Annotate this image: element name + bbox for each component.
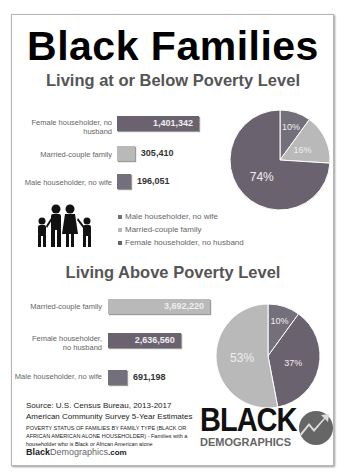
pie-slice-label: 16% bbox=[294, 145, 312, 155]
bar-label: Male householder, no wife bbox=[14, 178, 112, 187]
site-name-bold: Black bbox=[26, 447, 50, 457]
source-note: POVERTY STATUS OF FAMILIES BY FAMILY TYP… bbox=[26, 425, 187, 447]
site-tld: .com bbox=[108, 448, 127, 457]
bar-value-label: 691,198 bbox=[133, 370, 166, 385]
pie-chart-above-poverty: 10%37%53% bbox=[208, 296, 328, 416]
black-demographics-logo: BLACK DEMOGRAPHICS bbox=[200, 406, 297, 449]
bar-value-label: 305,410 bbox=[141, 146, 174, 161]
pie-slice-label: 37% bbox=[284, 358, 302, 368]
bar-label: Female householder, no husband bbox=[24, 118, 112, 136]
bar bbox=[117, 146, 135, 161]
site-name-rest: Demographics bbox=[50, 447, 108, 457]
bar-label: Female householder, no husband bbox=[24, 334, 102, 352]
legend-item: Female householder, no husband bbox=[118, 236, 244, 249]
pie-chart-below-poverty: 10%16%74% bbox=[220, 100, 340, 220]
section-title-below-poverty: Living at or Below Poverty Level bbox=[0, 71, 346, 90]
legend: Male householder, no wife Married-couple… bbox=[118, 210, 244, 249]
bar bbox=[117, 174, 131, 189]
bar-value-label: 3,692,220 bbox=[108, 299, 210, 314]
pie-slice-label: 10% bbox=[271, 316, 289, 326]
source-line: Source: U.S. Census Bureau, 2013-2017 bbox=[26, 400, 196, 411]
chart-trend-icon bbox=[298, 410, 334, 446]
legend-item: Married-couple family bbox=[118, 223, 244, 236]
page-title: Black Families bbox=[0, 23, 346, 70]
source-block: Source: U.S. Census Bureau, 2013-2017 Am… bbox=[26, 400, 196, 457]
bar-value-label: 196,051 bbox=[137, 174, 170, 189]
bar-value-label: 2,636,560 bbox=[108, 333, 181, 348]
section-title-above-poverty: Living Above Poverty Level bbox=[0, 263, 346, 282]
pie-slice-label: 74% bbox=[250, 170, 274, 184]
family-icon bbox=[34, 204, 98, 248]
bar-value-label: 1,401,342 bbox=[117, 116, 199, 131]
pie-slice-label: 10% bbox=[282, 122, 300, 132]
bar-label: Married-couple family bbox=[24, 150, 112, 159]
source-line: American Community Survey 5-Year Estimat… bbox=[26, 411, 196, 422]
legend-item: Male householder, no wife bbox=[118, 210, 244, 223]
pie-slice-label: 53% bbox=[230, 351, 254, 365]
bar bbox=[108, 370, 127, 385]
bar-label: Married-couple family bbox=[24, 302, 102, 311]
bar-label: Male householder, no wife bbox=[14, 372, 102, 381]
